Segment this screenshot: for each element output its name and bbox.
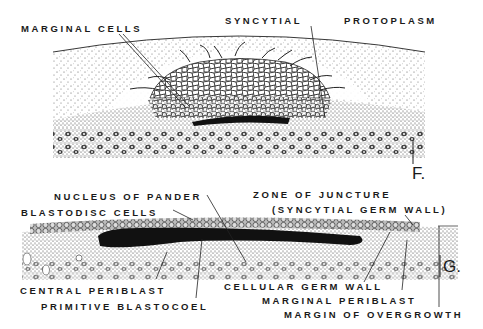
label-central-periblast: CENTRAL PERIBLAST <box>20 286 166 296</box>
panel-g-drawing <box>22 217 458 280</box>
label-margin-of-overgrowth: MARGIN OF OVERGROWTH <box>284 310 463 320</box>
panel-f-drawing <box>53 36 425 164</box>
label-cellular-germ-wall: CELLULAR GERM WALL <box>224 282 383 292</box>
label-protoplasm: PROTOPLASM <box>344 16 437 26</box>
panel-label-g: G. <box>443 258 461 275</box>
label-marginal-periblast: MARGINAL PERIBLAST <box>262 296 416 306</box>
label-marginal-cells: MARGINAL CELLS <box>21 24 142 34</box>
label-blastodisc-cells: BLASTODISC CELLS <box>21 208 158 218</box>
label-zone-of-juncture: ZONE OF JUNCTURE <box>253 190 391 200</box>
label-syncytial-germ-wall: (SYNCYTIAL GERM WALL) <box>272 205 447 215</box>
embryo-section-figure <box>0 0 483 329</box>
panel-label-f: F. <box>412 165 425 182</box>
label-primitive-blastocoel: PRIMITIVE BLASTOCOEL <box>41 302 208 312</box>
label-syncytial: SYNCYTIAL <box>225 16 302 26</box>
label-nucleus-of-pander: NUCLEUS OF PANDER <box>54 192 202 202</box>
